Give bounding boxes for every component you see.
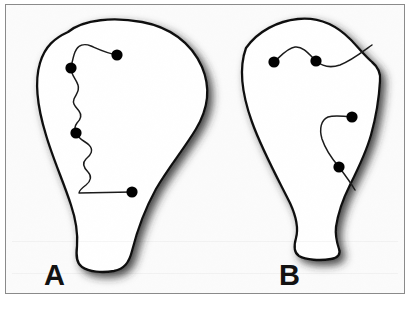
panel-label-a: A — [44, 261, 65, 290]
figure-canvas — [6, 5, 405, 294]
panel-label-b: B — [279, 261, 300, 290]
figure-frame: A B — [5, 4, 405, 294]
figure-root: A B — [0, 0, 415, 309]
paper-grain-overlay — [6, 5, 405, 294]
